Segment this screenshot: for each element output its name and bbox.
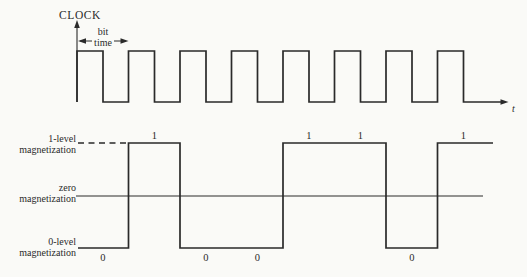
up-arrow-icon [74,20,80,28]
bit-value-label: 0 [203,252,208,263]
left-arrow-icon [78,38,86,43]
bit-value-label: 0 [100,252,105,263]
zero-mag-label-line2: magnetization [19,193,76,204]
nrz-encoding-diagram: CLOCK bit time t 1-level magnetization z… [0,0,527,277]
clock-waveform [77,51,505,102]
one-level-label-line2: magnetization [19,144,76,155]
bit-value-label: 0 [255,252,260,263]
time-axis-label: t [512,103,515,114]
right-arrow-icon [121,38,129,43]
bit-value-label: 0 [409,252,414,263]
clock-title: CLOCK [59,9,101,21]
one-level-label-line1: 1-level [48,133,76,144]
bit-value-label: 1 [306,130,311,141]
zero-level-label-line1: 0-level [48,236,76,247]
diagram-canvas: CLOCK bit time t 1-level magnetization z… [0,0,527,277]
bit-value-label: 1 [358,130,363,141]
zero-mag-label-line1: zero [59,182,76,193]
bit-value-label: 1 [152,130,157,141]
bit-time-label-line2: time [94,37,112,48]
time-axis-arrow-icon [501,99,509,105]
zero-level-label-line2: magnetization [19,247,76,258]
bit-value-label: 1 [461,130,466,141]
bit-time-label-line1: bit [98,26,109,37]
